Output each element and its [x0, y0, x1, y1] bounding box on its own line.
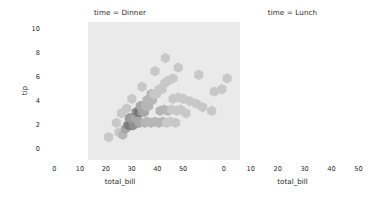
x-tick-label: 30 — [120, 165, 144, 173]
x-tick-label: 30 — [293, 165, 317, 173]
hexbin-cell — [174, 62, 183, 72]
hexbin-cell — [127, 94, 136, 104]
hexbin-cell — [161, 53, 170, 63]
y-tick-label: 8 — [14, 49, 40, 57]
y-tick-label: 2 — [14, 121, 40, 129]
x-axis-label: total_bill — [44, 177, 196, 186]
hexbin-cell — [112, 118, 121, 128]
facet-title-lunch: time = Lunch — [213, 8, 372, 17]
y-tick-label: 0 — [14, 145, 40, 153]
x-tick-label: 40 — [320, 165, 344, 173]
x-tick-label: 10 — [68, 165, 92, 173]
x-tick-label: 20 — [94, 165, 118, 173]
y-axis-label: tip — [20, 71, 29, 111]
x-axis-label: total_bill — [213, 177, 372, 186]
x-tick-label: 10 — [239, 165, 263, 173]
hexbin-cell — [194, 70, 203, 80]
hexbin-cell — [150, 66, 159, 76]
x-tick-label: 0 — [212, 165, 236, 173]
hexbin-cell — [138, 82, 147, 92]
facet-title-dinner: time = Dinner — [44, 8, 196, 17]
hexbin-cell — [104, 132, 113, 142]
x-tick-label: 20 — [266, 165, 290, 173]
y-tick-label: 10 — [14, 25, 40, 33]
hexbin-facet-figure: time = Dinner time = Lunch 0246810010203… — [0, 0, 390, 198]
x-tick-label: 50 — [171, 165, 195, 173]
x-tick-label: 40 — [145, 165, 169, 173]
x-tick-label: 50 — [347, 165, 371, 173]
x-tick-label: 0 — [42, 165, 66, 173]
